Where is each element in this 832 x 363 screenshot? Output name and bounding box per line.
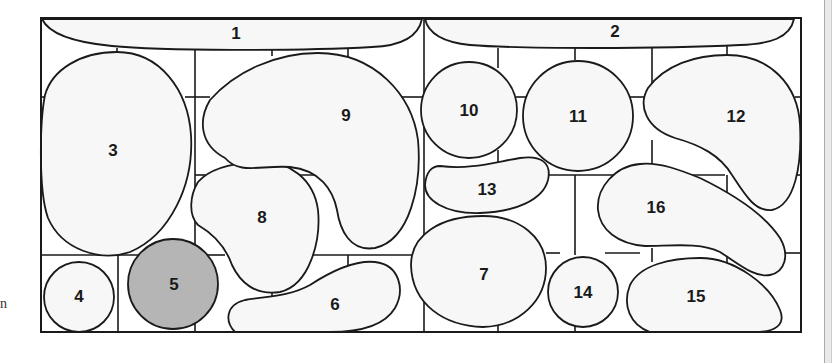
region-label-8: 8	[257, 208, 266, 227]
region-2[interactable]: 2	[425, 19, 794, 48]
region-label-1: 1	[231, 24, 240, 43]
region-label-3: 3	[108, 141, 117, 160]
region-label-6: 6	[330, 295, 339, 314]
region-label-5: 5	[169, 275, 178, 294]
region-7[interactable]: 7	[411, 216, 546, 327]
region-label-15: 15	[687, 287, 706, 306]
region-label-4: 4	[74, 287, 84, 306]
region-4[interactable]: 4	[44, 262, 114, 332]
region-label-9: 9	[341, 106, 350, 125]
region-1[interactable]: 1	[42, 19, 422, 50]
region-label-7: 7	[479, 265, 488, 284]
region-5[interactable]: 5	[128, 239, 218, 329]
region-10[interactable]: 10	[421, 62, 517, 158]
region-11[interactable]: 11	[523, 61, 633, 171]
region-13[interactable]: 13	[425, 157, 549, 213]
region-label-10: 10	[460, 101, 479, 120]
region-14[interactable]: 14	[548, 257, 618, 327]
region-3[interactable]: 3	[41, 52, 191, 255]
region-label-2: 2	[610, 22, 619, 41]
region-label-14: 14	[574, 283, 593, 302]
region-label-16: 16	[647, 198, 666, 217]
region-label-12: 12	[727, 107, 746, 126]
region-label-11: 11	[569, 107, 587, 126]
region-label-13: 13	[478, 180, 497, 199]
